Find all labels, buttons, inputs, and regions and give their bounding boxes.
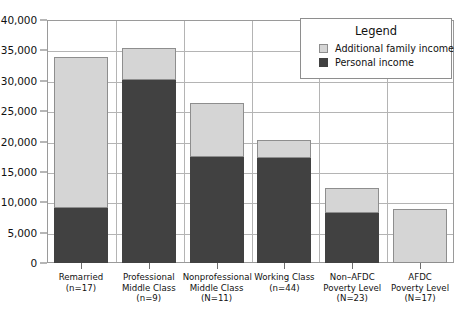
y-tick-mark <box>40 141 47 142</box>
x-axis-label-line: (N=11) <box>183 293 251 304</box>
x-axis-category-label: ProfessionalMiddle Class(n=9) <box>115 272 183 304</box>
x-axis-label-line: (n=44) <box>251 283 319 294</box>
y-tick-mark <box>40 202 47 203</box>
bar-segment-personal-income[interactable] <box>54 208 108 263</box>
x-tick-mark <box>81 263 82 269</box>
dark-gray-swatch-icon <box>319 58 328 67</box>
x-tick-mark <box>217 263 218 269</box>
y-tick-mark <box>40 232 47 233</box>
bar-segment-additional-family-income[interactable] <box>54 57 108 208</box>
bar-segment-additional-family-income[interactable] <box>257 140 311 158</box>
x-axis-label-line: (N=17) <box>386 293 454 304</box>
y-tick-label: 30,000 <box>1 75 37 87</box>
legend: Legend Additional family income Personal… <box>300 18 452 79</box>
x-axis-label-line: Middle Class <box>115 283 183 294</box>
light-gray-swatch-icon <box>319 44 328 53</box>
y-tick-label: 15,000 <box>1 166 37 178</box>
bar-group[interactable] <box>54 57 108 263</box>
y-tick-label: 20,000 <box>1 136 37 148</box>
y-tick-mark <box>40 20 47 21</box>
x-axis-label-line: (N=23) <box>318 293 386 304</box>
x-tick-mark <box>149 263 150 269</box>
bar-segment-additional-family-income[interactable] <box>325 188 379 214</box>
x-axis-label-line: Middle Class <box>183 283 251 294</box>
x-axis-label-line: Working Class <box>251 272 319 283</box>
y-tick-label: 5,000 <box>7 227 37 239</box>
y-tick-mark <box>40 80 47 81</box>
x-axis-label-line: Nonprofessional <box>183 272 251 283</box>
x-axis-labels: Remarried(n=17)ProfessionalMiddle Class(… <box>47 272 454 327</box>
bar-segment-personal-income[interactable] <box>325 213 379 263</box>
y-tick-mark <box>40 171 47 172</box>
bar-group[interactable] <box>122 48 176 263</box>
bar-segment-personal-income[interactable] <box>257 158 311 263</box>
y-tick-label: 35,000 <box>1 44 37 56</box>
y-tick-mark <box>40 111 47 112</box>
bar-group[interactable] <box>257 140 311 263</box>
bar-group[interactable] <box>325 188 379 263</box>
y-tick-mark <box>40 263 47 264</box>
bar-segment-personal-income[interactable] <box>190 157 244 263</box>
bar-segment-additional-family-income[interactable] <box>393 209 447 263</box>
x-tick-mark <box>284 263 285 269</box>
x-axis-label-line: Non–AFDC <box>318 272 386 283</box>
x-axis-label-line: Professional <box>115 272 183 283</box>
x-axis-label-line: Remarried <box>47 272 115 283</box>
x-axis-ticks <box>47 263 454 271</box>
legend-item-additional-family-income: Additional family income <box>319 43 443 54</box>
legend-title: Legend <box>309 24 443 38</box>
x-axis-label-line: (n=9) <box>115 293 183 304</box>
x-axis-label-line: Poverty Level <box>318 283 386 294</box>
bar-group[interactable] <box>393 209 447 263</box>
bar-segment-personal-income[interactable] <box>122 80 176 263</box>
stacked-bar-chart: 05,00010,00015,00020,00025,00030,00035,0… <box>0 0 465 327</box>
x-axis-category-label: Remarried(n=17) <box>47 272 115 293</box>
x-axis-label-line: Poverty Level <box>386 283 454 294</box>
y-axis: 05,00010,00015,00020,00025,00030,00035,0… <box>0 0 47 327</box>
bar-group[interactable] <box>190 103 244 263</box>
y-tick-label: 40,000 <box>1 14 37 26</box>
y-tick-label: 10,000 <box>1 196 37 208</box>
x-axis-label-line: (n=17) <box>47 283 115 294</box>
x-axis-label-line: AFDC <box>386 272 454 283</box>
legend-item-label: Personal income <box>335 57 414 68</box>
legend-item-label: Additional family income <box>335 43 454 54</box>
x-axis-category-label: Working Class(n=44) <box>251 272 319 293</box>
y-tick-label: 0 <box>30 257 37 269</box>
x-tick-mark <box>352 263 353 269</box>
x-axis-category-label: NonprofessionalMiddle Class(N=11) <box>183 272 251 304</box>
x-tick-mark <box>420 263 421 269</box>
y-tick-mark <box>40 50 47 51</box>
x-axis-category-label: AFDCPoverty Level(N=17) <box>386 272 454 304</box>
bar-segment-additional-family-income[interactable] <box>190 103 244 157</box>
bar-segment-additional-family-income[interactable] <box>122 48 176 80</box>
y-tick-label: 25,000 <box>1 105 37 117</box>
legend-item-personal-income: Personal income <box>319 57 443 68</box>
x-axis-category-label: Non–AFDCPoverty Level(N=23) <box>318 272 386 304</box>
